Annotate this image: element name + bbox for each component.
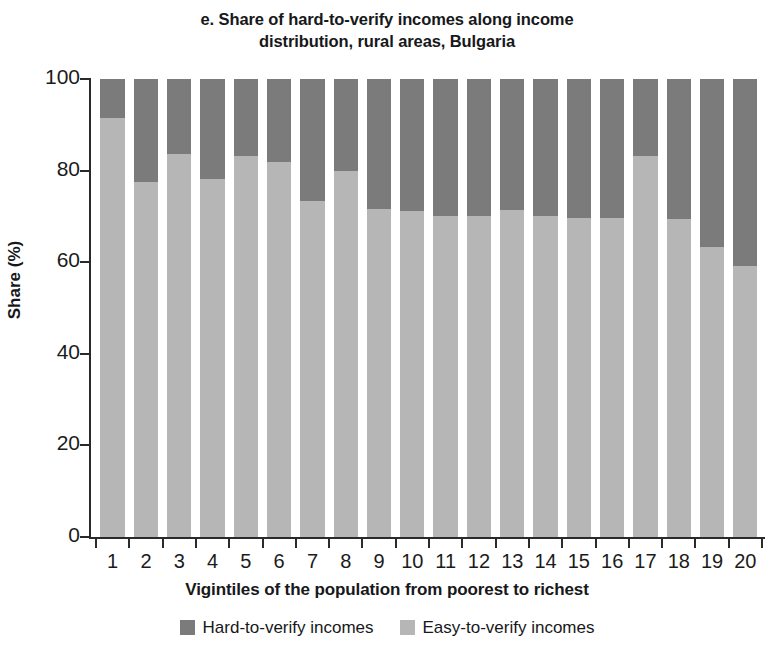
plot-area xyxy=(96,79,762,537)
x-tick-mark-1 xyxy=(128,539,130,548)
bar-segment-hard-to-verify xyxy=(100,79,124,118)
y-axis-title: Share (%) xyxy=(5,180,25,380)
x-tick-mark-16 xyxy=(628,539,630,548)
x-tick-label-20: 20 xyxy=(725,550,765,573)
y-tick-mark-20 xyxy=(80,444,89,446)
x-tick-mark-4 xyxy=(228,539,230,548)
bar-segment-hard-to-verify xyxy=(334,79,358,171)
bar-segment-easy-to-verify xyxy=(500,210,524,537)
bar-vigintile-16 xyxy=(600,79,624,537)
bar-segment-hard-to-verify xyxy=(200,79,224,179)
bar-segment-easy-to-verify xyxy=(334,171,358,537)
bar-vigintile-3 xyxy=(167,79,191,537)
y-tick-mark-40 xyxy=(80,353,89,355)
legend-label-hard-to-verify: Hard-to-verify incomes xyxy=(203,618,374,637)
bar-segment-hard-to-verify xyxy=(533,79,557,216)
x-tick-mark-3 xyxy=(195,539,197,548)
x-tick-mark-9 xyxy=(395,539,397,548)
bar-vigintile-7 xyxy=(300,79,324,537)
bar-vigintile-19 xyxy=(700,79,724,537)
bar-segment-hard-to-verify xyxy=(700,79,724,247)
bar-segment-hard-to-verify xyxy=(367,79,391,209)
bar-segment-hard-to-verify xyxy=(633,79,657,156)
bar-vigintile-11 xyxy=(433,79,457,537)
y-tick-label-80: 80 xyxy=(20,157,80,181)
bar-segment-easy-to-verify xyxy=(234,156,258,537)
y-tick-label-60: 60 xyxy=(20,248,80,272)
bar-vigintile-1 xyxy=(100,79,124,537)
bar-segment-hard-to-verify xyxy=(433,79,457,216)
bar-segment-hard-to-verify xyxy=(600,79,624,218)
y-tick-mark-80 xyxy=(80,170,89,172)
bar-segment-easy-to-verify xyxy=(667,219,691,537)
bar-vigintile-17 xyxy=(633,79,657,537)
bar-vigintile-2 xyxy=(134,79,158,537)
bar-segment-easy-to-verify xyxy=(134,182,158,537)
y-axis-line xyxy=(89,78,91,539)
y-tick-mark-100 xyxy=(80,78,89,80)
bar-segment-hard-to-verify xyxy=(300,79,324,201)
bar-segment-easy-to-verify xyxy=(267,162,291,537)
bar-segment-hard-to-verify xyxy=(400,79,424,211)
x-tick-mark-14 xyxy=(561,539,563,548)
x-tick-mark-2 xyxy=(162,539,164,548)
bar-segment-easy-to-verify xyxy=(467,216,491,537)
x-tick-mark-17 xyxy=(661,539,663,548)
chart-title-line-1: e. Share of hard-to-verify incomes along… xyxy=(200,10,573,28)
bar-segment-hard-to-verify xyxy=(667,79,691,219)
y-tick-label-0: 0 xyxy=(20,523,80,547)
chart-figure: e. Share of hard-to-verify incomes along… xyxy=(0,0,774,651)
bar-segment-easy-to-verify xyxy=(700,247,724,537)
bar-vigintile-8 xyxy=(334,79,358,537)
bar-segment-hard-to-verify xyxy=(267,79,291,162)
bar-segment-hard-to-verify xyxy=(567,79,591,218)
bar-segment-easy-to-verify xyxy=(400,211,424,537)
legend-label-easy-to-verify: Easy-to-verify incomes xyxy=(423,618,595,637)
chart-legend: Hard-to-verify incomesEasy-to-verify inc… xyxy=(0,618,774,637)
bar-vigintile-10 xyxy=(400,79,424,537)
bar-vigintile-9 xyxy=(367,79,391,537)
chart-title: e. Share of hard-to-verify incomes along… xyxy=(120,8,654,52)
bar-vigintile-18 xyxy=(667,79,691,537)
bar-segment-easy-to-verify xyxy=(300,201,324,537)
bar-vigintile-5 xyxy=(234,79,258,537)
bar-segment-easy-to-verify xyxy=(367,209,391,537)
x-axis-line xyxy=(89,537,765,539)
x-tick-mark-6 xyxy=(295,539,297,548)
bar-segment-easy-to-verify xyxy=(567,218,591,537)
x-tick-mark-20 xyxy=(761,539,763,548)
bar-vigintile-15 xyxy=(567,79,591,537)
x-tick-mark-15 xyxy=(595,539,597,548)
x-tick-mark-10 xyxy=(428,539,430,548)
bar-segment-easy-to-verify xyxy=(600,218,624,537)
bar-segment-easy-to-verify xyxy=(633,156,657,537)
bar-vigintile-20 xyxy=(733,79,757,537)
legend-item-hard-to-verify: Hard-to-verify incomes xyxy=(180,618,374,637)
x-tick-mark-7 xyxy=(328,539,330,548)
y-tick-mark-0 xyxy=(80,536,89,538)
x-tick-mark-5 xyxy=(262,539,264,548)
legend-swatch-hard xyxy=(180,620,195,635)
bar-segment-easy-to-verify xyxy=(167,154,191,537)
bar-vigintile-12 xyxy=(467,79,491,537)
x-tick-mark-12 xyxy=(495,539,497,548)
bar-segment-hard-to-verify xyxy=(234,79,258,156)
bar-segment-hard-to-verify xyxy=(733,79,757,266)
x-tick-mark-11 xyxy=(461,539,463,548)
y-tick-label-100: 100 xyxy=(20,65,80,89)
bar-segment-easy-to-verify xyxy=(733,266,757,537)
bar-vigintile-14 xyxy=(533,79,557,537)
bar-segment-hard-to-verify xyxy=(167,79,191,154)
bar-vigintile-6 xyxy=(267,79,291,537)
legend-item-easy-to-verify: Easy-to-verify incomes xyxy=(400,618,595,637)
chart-title-line-2: distribution, rural areas, Bulgaria xyxy=(120,30,654,52)
x-tick-mark-19 xyxy=(728,539,730,548)
bar-segment-hard-to-verify xyxy=(467,79,491,216)
x-axis-title: Vigintiles of the population from poores… xyxy=(0,580,774,600)
bar-segment-easy-to-verify xyxy=(433,216,457,537)
bar-segment-easy-to-verify xyxy=(533,216,557,537)
bar-segment-easy-to-verify xyxy=(200,179,224,537)
y-tick-label-40: 40 xyxy=(20,340,80,364)
bar-vigintile-4 xyxy=(200,79,224,537)
bar-segment-hard-to-verify xyxy=(134,79,158,182)
